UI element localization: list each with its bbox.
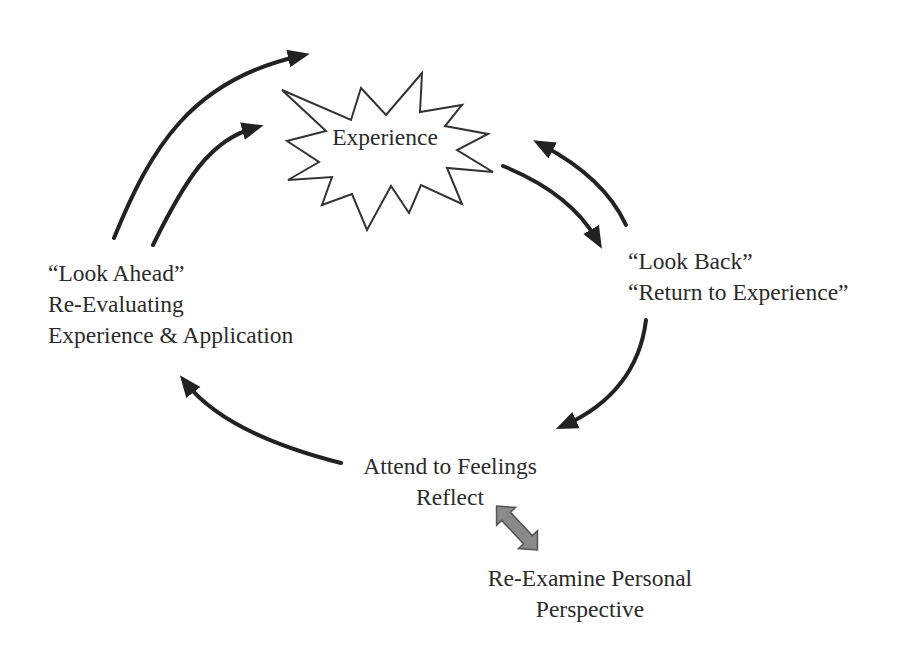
arrow-experience-to-look-back [503, 166, 597, 240]
look-back-line-2: “Return to Experience” [628, 277, 849, 308]
look-ahead-line-3: Experience & Application [48, 320, 293, 351]
arrow-look-ahead-to-experience [153, 128, 254, 245]
arrow-attend-to-look-ahead [186, 383, 341, 463]
re-examine-line-1: Re-Examine Personal [470, 563, 710, 594]
attend-line-1: Attend to Feelings [340, 451, 560, 482]
look-back-line-1: “Look Back” [628, 246, 849, 277]
arrow-look-back-to-attend [565, 320, 646, 425]
experience-text: Experience [310, 122, 460, 153]
re-examine-label: Re-Examine Personal Perspective [470, 563, 710, 625]
experience-label: Experience [310, 122, 460, 153]
look-back-label: “Look Back” “Return to Experience” [628, 246, 849, 308]
arrow-look-back-to-experience [542, 145, 626, 225]
look-ahead-line-2: Re-Evaluating [48, 289, 293, 320]
look-ahead-line-1: “Look Ahead” [48, 258, 293, 289]
look-ahead-label: “Look Ahead” Re-Evaluating Experience & … [48, 258, 293, 351]
attend-label: Attend to Feelings Reflect [340, 451, 560, 513]
arrow-look-ahead-outer [114, 56, 300, 238]
re-examine-line-2: Perspective [470, 594, 710, 625]
attend-line-2: Reflect [340, 482, 560, 513]
